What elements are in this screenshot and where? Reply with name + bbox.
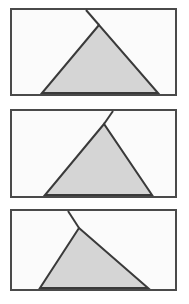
figure-canvas (0, 0, 189, 304)
figure-stack (0, 0, 189, 304)
panel-2 (11, 110, 176, 197)
panel-3 (11, 210, 176, 290)
panel-1 (11, 9, 176, 95)
